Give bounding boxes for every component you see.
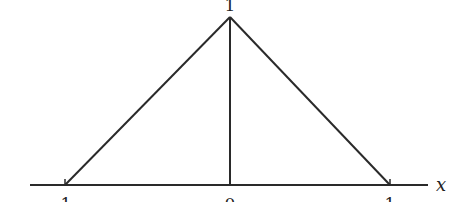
peak-label: 1 xyxy=(225,0,236,15)
tick-label-right: 1 xyxy=(385,194,396,202)
left-edge xyxy=(65,17,230,185)
tick-label-center: 0 xyxy=(225,194,236,202)
tick-label-left: 1 xyxy=(61,194,72,202)
right-edge xyxy=(230,17,390,185)
axis-label-x: x xyxy=(436,174,446,195)
triangle-plot: 1 x 1 0 1 xyxy=(0,0,470,202)
